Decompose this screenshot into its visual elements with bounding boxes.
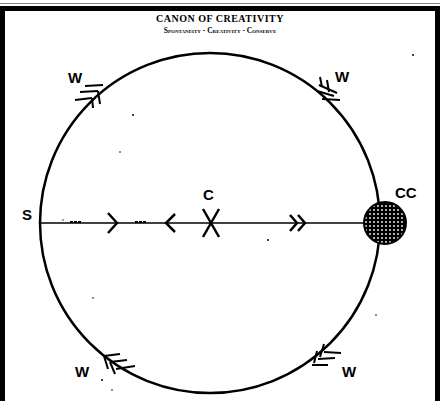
canon-diagram: S C CC W W W W: [0, 0, 440, 401]
label-s: S: [22, 206, 32, 223]
label-w-top-right: W: [335, 68, 350, 85]
label-w-top-left: W: [68, 69, 83, 86]
cultural-conserve-disk: [364, 202, 406, 244]
label-w-bottom-left: W: [75, 363, 90, 380]
label-cc: CC: [395, 184, 417, 201]
label-w-bottom-right: W: [342, 363, 357, 380]
feather-arrow-bottom-left-icon: [104, 354, 135, 374]
label-c: C: [203, 186, 214, 203]
